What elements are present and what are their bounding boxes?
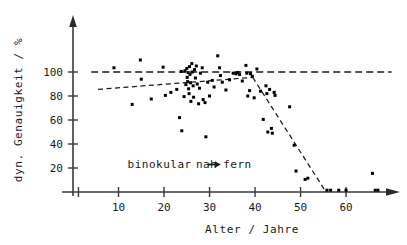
scatter-point [189,81,192,84]
scatter-point [228,78,231,81]
scatter-point [198,87,201,90]
scatter-point [325,189,328,192]
scatter-plot-canvas: 20406080100 102030405060 binokularnahfer… [0,0,407,245]
scatter-point [221,81,224,84]
scatter-point [268,88,271,91]
scatter-point [241,80,244,83]
scatter-point [208,95,211,98]
x-tick-label-40: 40 [248,201,261,214]
scatter-point [376,189,379,192]
scatter-point [219,74,222,77]
scatter-point [218,66,221,69]
x-axis-title: Alter / Jahre [205,223,299,236]
scatter-point [188,65,191,68]
x-tick-label-50: 50 [294,201,307,214]
scatter-point [186,80,189,83]
scatter-point [304,178,307,181]
x-tick-label-10: 10 [112,201,125,214]
scatter-point [131,103,134,106]
scatter-point [259,90,262,93]
scatter-point [204,135,207,138]
y-axis-title: dyn. Genauigkeit / % [12,38,25,182]
scatter-point [196,83,199,86]
scatter-point [213,86,216,89]
scatter-point [266,131,269,134]
scatter-point [139,59,142,62]
scatter-point [195,65,198,68]
scatter-point [248,89,251,92]
scatter-point [253,96,256,99]
scatter-point [193,68,196,71]
scatter-point [180,70,183,73]
scatter-point [150,98,153,101]
scatter-point [199,72,202,75]
scatter-point [186,76,189,79]
scatter-point [238,73,241,76]
condition-label: binokular [128,158,192,171]
scatter-point [306,177,309,180]
scatter-point [274,94,277,97]
scatter-point [337,189,340,192]
scatter-point [262,118,265,121]
scatter-point [206,81,209,84]
scatter-point [251,75,254,78]
scatter-point [189,100,192,103]
scatter-point [273,91,276,94]
scatter-point [203,101,206,104]
scatter-point [184,83,187,86]
scatter-point [180,129,183,132]
plot-annotations-group: binokularnahfern [128,158,252,171]
scatter-point [169,91,172,94]
x-tick-label-20: 20 [157,201,170,214]
x-tick-label-60: 60 [339,201,352,214]
y-tick-label-80: 80 [50,90,63,103]
scatter-point [374,189,377,192]
scatter-point [201,66,204,69]
scatter-point [264,84,267,87]
scatter-point [164,94,167,97]
scatter-point [371,172,374,175]
scatter-point [178,116,181,119]
scatter-point [295,170,298,173]
scatter-point [245,72,248,75]
scatter-point [255,68,258,71]
scatter-point [194,77,197,80]
scatter-point [185,67,188,70]
y-tick-label-40: 40 [50,138,63,151]
scatter-points-group [112,54,379,191]
scatter-point [192,84,195,87]
scatter-point [190,62,193,65]
x-axis-arrow-icon [386,188,400,195]
arrow-right-icon [215,161,221,167]
y-axis-arrow-icon [69,15,77,27]
scatter-point [265,92,268,95]
scatter-point [270,127,273,130]
scatter-point [202,98,205,101]
scatter-point [197,102,200,105]
y-tick-label-20: 20 [50,162,63,175]
scatter-point [271,132,274,135]
scatter-point [329,189,332,192]
scatter-point [246,95,249,98]
y-axis-tick-labels: 20406080100 [43,66,63,175]
scatter-point [211,79,214,82]
scatter-point [232,72,235,75]
chart-figure: 20406080100 102030405060 binokularnahfer… [0,0,407,245]
scatter-point [192,96,195,99]
direction-label-far: fern [223,158,252,171]
scatter-point [244,64,247,67]
trend-lines-group [98,77,326,191]
scatter-point [216,54,219,57]
x-axis-tick-labels: 102030405060 [112,201,353,214]
scatter-point [345,189,348,192]
y-tick-label-100: 100 [43,66,63,79]
scatter-point [288,105,291,108]
scatter-point [183,95,186,98]
scatter-point [188,92,191,95]
trend-decline [253,77,326,191]
scatter-point [187,87,190,90]
x-tick-label-30: 30 [203,201,216,214]
scatter-point [175,88,178,91]
scatter-point [162,66,165,69]
scatter-point [140,78,143,81]
